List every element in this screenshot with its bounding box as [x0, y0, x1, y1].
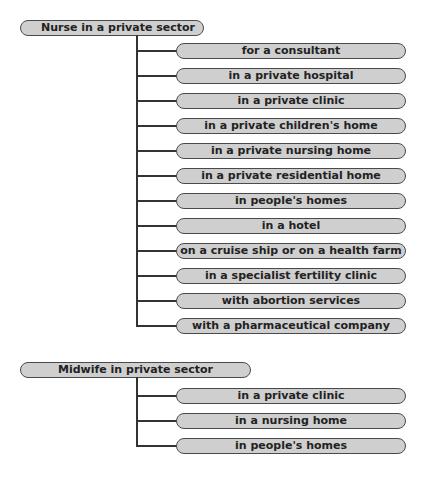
leaf-node: in a private residential home: [176, 168, 406, 184]
branch-line: [136, 150, 178, 152]
nurse-group-header: Nurse in a private sector: [20, 20, 204, 36]
branch-line: [136, 395, 178, 397]
branch-line: [136, 225, 178, 227]
leaf-node: in a private clinic: [176, 93, 406, 109]
nurse-group-connector: [136, 35, 138, 326]
leaf-node: in a hotel: [176, 218, 406, 234]
leaf-node: in a specialist fertility clinic: [176, 268, 406, 284]
branch-line: [136, 175, 178, 177]
branch-line: [136, 300, 178, 302]
leaf-node: in a private children's home: [176, 118, 406, 134]
branch-line: [136, 275, 178, 277]
leaf-node: for a consultant: [176, 43, 406, 59]
leaf-node: in people's homes: [176, 193, 406, 209]
midwife-group-connector: [136, 377, 138, 446]
branch-line: [136, 250, 178, 252]
branch-line: [136, 445, 178, 447]
branch-line: [136, 420, 178, 422]
branch-line: [136, 125, 178, 127]
leaf-node: in a private nursing home: [176, 143, 406, 159]
leaf-node: in people's homes: [176, 438, 406, 454]
leaf-node: with a pharmaceutical company: [176, 318, 406, 334]
branch-line: [136, 100, 178, 102]
branch-line: [136, 325, 178, 327]
leaf-node: in a private clinic: [176, 388, 406, 404]
leaf-node: in a private hospital: [176, 68, 406, 84]
leaf-node: on a cruise ship or on a health farm: [176, 243, 406, 259]
leaf-node: with abortion services: [176, 293, 406, 309]
midwife-group-header: Midwife in private sector: [20, 362, 251, 378]
branch-line: [136, 75, 178, 77]
branch-line: [136, 50, 178, 52]
branch-line: [136, 200, 178, 202]
leaf-node: in a nursing home: [176, 413, 406, 429]
